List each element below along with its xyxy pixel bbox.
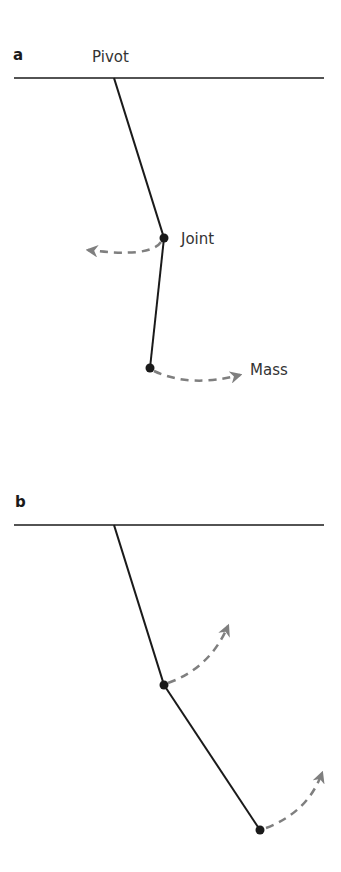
mass-label: Mass	[250, 361, 288, 379]
joint-motion-arrow	[168, 626, 228, 683]
double-pendulum-diagram: a Pivot Joint Mass b	[0, 0, 341, 872]
joint-label: Joint	[180, 230, 214, 248]
panel-b: b	[14, 493, 324, 835]
joint-motion-arrow	[88, 242, 161, 253]
mass-dot	[256, 826, 265, 835]
joint-dot	[160, 234, 169, 243]
pivot-label: Pivot	[92, 48, 129, 66]
panel-a: a Pivot Joint Mass	[13, 46, 324, 381]
upper-rod	[114, 525, 164, 685]
mass-dot	[146, 364, 155, 373]
lower-rod	[150, 238, 164, 368]
joint-dot	[160, 681, 169, 690]
upper-rod	[114, 78, 164, 238]
lower-rod	[164, 685, 260, 830]
panel-label-b: b	[15, 493, 26, 511]
mass-motion-arrow	[266, 773, 322, 828]
panel-label-a: a	[13, 46, 23, 64]
mass-motion-arrow	[154, 371, 240, 381]
